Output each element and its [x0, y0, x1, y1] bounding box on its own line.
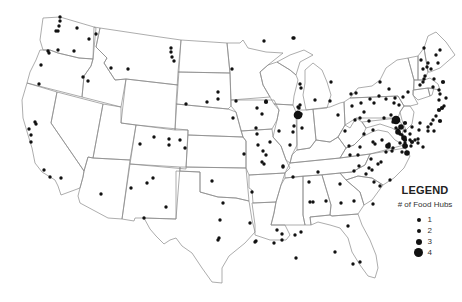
food-hub-marker	[291, 175, 294, 178]
food-hub-marker	[47, 51, 50, 54]
food-hub-marker	[178, 138, 181, 141]
food-hub-marker	[29, 140, 32, 143]
food-hub-marker	[410, 140, 414, 144]
food-hub-marker	[392, 101, 395, 104]
food-hub-marker	[294, 256, 297, 259]
food-hub-marker	[151, 176, 154, 179]
food-hub-marker	[379, 160, 382, 163]
food-hub-marker	[409, 144, 412, 147]
food-hub-marker	[294, 111, 303, 120]
food-hub-marker	[437, 88, 440, 91]
food-hub-marker	[216, 90, 219, 93]
food-hub-marker	[242, 152, 245, 155]
food-hub-marker	[255, 106, 258, 109]
food-hub-marker	[169, 46, 172, 49]
food-hub-marker	[255, 132, 258, 135]
food-hub-marker	[384, 150, 387, 153]
food-hub-marker	[260, 112, 263, 115]
food-hub-marker	[368, 97, 371, 100]
food-hub-marker	[401, 95, 404, 98]
food-hub-marker	[299, 230, 302, 233]
food-hub-marker	[253, 240, 256, 243]
food-hub-marker	[39, 63, 42, 66]
food-hub-marker	[364, 172, 367, 175]
food-hub-marker	[138, 142, 141, 145]
food-hub-marker	[403, 129, 406, 132]
food-hub-marker	[218, 218, 221, 221]
food-hub-marker	[382, 116, 385, 119]
dot-size-1-icon	[417, 218, 421, 222]
food-hub-marker	[441, 80, 445, 84]
food-hub-marker	[362, 110, 365, 113]
food-hub-marker	[369, 157, 372, 160]
food-hub-marker	[142, 216, 145, 219]
food-hub-marker	[352, 199, 355, 202]
food-hub-marker	[145, 181, 148, 184]
food-hub-marker	[307, 180, 310, 183]
food-hub-marker	[376, 162, 379, 165]
food-hub-marker	[57, 24, 60, 27]
food-hub-marker	[298, 103, 301, 106]
food-hub-marker	[164, 205, 167, 208]
food-hub-marker	[308, 200, 311, 203]
food-hub-marker	[362, 132, 365, 135]
food-hub-marker	[371, 140, 374, 143]
food-hub-marker	[357, 164, 360, 167]
food-hub-marker	[358, 145, 361, 148]
food-hub-marker	[72, 49, 75, 52]
food-hub-marker	[291, 130, 294, 133]
food-hub-marker	[184, 102, 187, 105]
food-hub-marker	[288, 143, 291, 146]
state-maine	[424, 32, 455, 72]
food-hub-marker	[268, 140, 271, 143]
food-hub-marker	[416, 141, 419, 144]
food-hub-marker	[395, 129, 401, 135]
food-hub-marker	[126, 67, 129, 70]
food-hub-marker	[329, 80, 332, 83]
food-hub-marker	[256, 143, 259, 146]
food-hub-marker	[280, 232, 283, 235]
food-hub-marker	[261, 149, 264, 152]
food-hub-marker	[436, 61, 439, 64]
food-hub-marker	[58, 19, 61, 22]
food-hub-marker	[280, 238, 283, 241]
state-iowa	[231, 100, 279, 131]
food-hub-marker	[431, 118, 434, 121]
legend-title: LEGEND	[388, 184, 462, 196]
food-hub-marker	[42, 168, 45, 171]
state-georgia	[322, 173, 364, 216]
food-hub-marker	[170, 55, 173, 58]
food-hub-marker	[391, 146, 394, 149]
food-hub-marker	[262, 162, 265, 165]
food-hub-marker	[349, 92, 352, 95]
food-hub-marker	[359, 101, 362, 104]
food-hub-marker	[183, 146, 186, 149]
food-hub-marker	[169, 50, 172, 53]
food-hub-marker	[333, 250, 336, 253]
food-hub-marker	[352, 169, 355, 172]
food-hub-marker	[56, 48, 59, 51]
food-hub-marker	[377, 94, 380, 97]
state-oregon	[27, 50, 93, 97]
food-hub-marker	[406, 90, 409, 93]
food-hub-marker	[367, 166, 370, 169]
food-hub-marker	[432, 77, 435, 80]
food-hub-marker	[371, 128, 374, 131]
legend-item-label: 4	[428, 248, 438, 257]
food-hub-marker	[421, 67, 424, 70]
legend-item-label: 3	[428, 237, 438, 246]
food-hub-marker	[343, 129, 346, 132]
food-hub-marker	[432, 129, 435, 132]
food-hub-marker	[172, 59, 175, 62]
state-new-york	[350, 58, 418, 106]
food-hub-marker	[94, 32, 97, 35]
food-hub-marker	[27, 127, 30, 130]
state-kentucky	[290, 137, 346, 163]
food-hub-marker	[421, 80, 424, 83]
state-south-carolina	[346, 176, 383, 205]
food-hub-marker	[387, 87, 390, 90]
food-hub-marker	[419, 58, 422, 61]
state-mississippi	[271, 176, 305, 225]
food-hub-marker	[354, 91, 357, 94]
state-california	[22, 83, 84, 195]
